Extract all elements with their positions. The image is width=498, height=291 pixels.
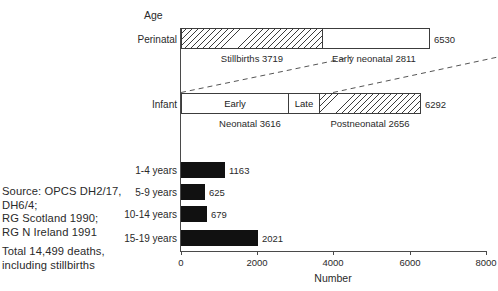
x-tick-label-2000: 2000 — [246, 257, 267, 268]
segment-stillbirths — [181, 28, 323, 49]
bar-10-14-years — [181, 206, 207, 222]
segment-late: Late — [288, 93, 320, 114]
x-tick-0 — [181, 251, 182, 255]
x-tick-label-0: 0 — [178, 257, 183, 268]
caption-neonatal: Neonatal 3616 — [219, 118, 281, 129]
bar-label-15-19-years: 15-19 years — [100, 233, 177, 244]
caption-postneonatal: Postneonatal 2656 — [330, 118, 409, 129]
caption-early-neonatal: Early neonatal 2811 — [332, 53, 416, 64]
bar-label-10-14-years: 10-14 years — [100, 209, 177, 220]
segment-early-label: Early — [224, 98, 246, 109]
row-total-infant: 6292 — [425, 98, 446, 109]
x-tick-label-6000: 6000 — [399, 257, 420, 268]
bar-value-5-9-years: 625 — [209, 187, 225, 198]
x-tick-4000 — [333, 251, 334, 255]
segment-early-neonatal — [322, 28, 430, 49]
bar-value-15-19-years: 2021 — [262, 233, 283, 244]
bar-value-1-4-years: 1163 — [229, 165, 249, 176]
row-label-perinatal: Perinatal — [120, 33, 177, 44]
bar-label-5-9-years: 5-9 years — [100, 187, 177, 198]
mortality-by-age-chart: Age Source: OPCS DH2/17, DH6/4; RG Scotl… — [0, 0, 498, 291]
segment-early: Early — [181, 93, 289, 114]
row-label-infant: Infant — [120, 98, 177, 109]
x-tick-label-8000: 8000 — [475, 257, 496, 268]
x-tick-label-4000: 4000 — [322, 257, 343, 268]
x-tick-8000 — [486, 251, 487, 255]
x-axis-label: Number — [314, 272, 351, 284]
caption-stillbirths: Stillbirths 3719 — [221, 53, 283, 64]
bar-15-19-years — [181, 230, 258, 246]
bar-5-9-years — [181, 184, 205, 200]
bar-value-10-14-years: 679 — [211, 209, 227, 220]
x-tick-6000 — [410, 251, 411, 255]
segment-late-label: Late — [295, 98, 314, 109]
stacked-bar-perinatal — [181, 28, 430, 49]
segment-postneonatal — [319, 93, 421, 114]
x-tick-2000 — [257, 251, 258, 255]
stacked-bar-infant: Early Late — [181, 93, 421, 114]
bar-label-1-4-years: 1-4 years — [100, 165, 177, 176]
row-total-perinatal: 6530 — [434, 33, 455, 44]
bar-1-4-years — [181, 162, 225, 178]
